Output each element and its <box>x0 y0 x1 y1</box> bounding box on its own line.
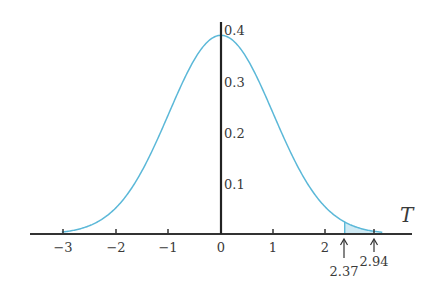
x-tick-label: 1 <box>269 240 277 255</box>
y-tick-label: 0.3 <box>224 75 245 90</box>
arrow-up-icon <box>371 239 378 252</box>
x-tick-label: −1 <box>158 240 177 255</box>
x-tick-label: −2 <box>106 240 125 255</box>
y-tick-label: 0.2 <box>224 126 245 141</box>
x-tick-label: 2 <box>321 240 329 255</box>
y-tick-label: 0.1 <box>224 177 245 192</box>
x-tick-label: 0 <box>217 240 225 255</box>
normal-distribution-chart: −3 −2 −1 0 1 2 0.4 0.3 0.2 0.1 T 2.37 2.… <box>0 0 442 305</box>
x-axis-title: T <box>400 203 415 227</box>
annotation-label: 2.94 <box>360 254 389 269</box>
y-tick-label: 0.4 <box>224 23 245 38</box>
annotation-label: 2.37 <box>330 264 359 279</box>
x-tick-label: −3 <box>53 240 72 255</box>
arrow-up-icon <box>341 239 348 258</box>
